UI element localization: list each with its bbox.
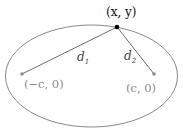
focus-right-label: (c, 0): [126, 81, 156, 95]
ellipse-diagram: (x, y) d1 d2 (−c, 0) (c, 0): [0, 0, 183, 131]
focus-left-dot: [20, 72, 24, 76]
focus-left-label: (−c, 0): [24, 77, 64, 91]
distance-line-d2: [117, 27, 154, 74]
focus-right-dot: [152, 72, 156, 76]
d1-label: d1: [77, 50, 89, 66]
d2-label: d2: [124, 49, 137, 65]
ellipse-curve: [6, 25, 178, 127]
point-dot: [115, 25, 120, 30]
distance-line-d1: [22, 27, 117, 74]
point-label: (x, y): [106, 5, 137, 19]
